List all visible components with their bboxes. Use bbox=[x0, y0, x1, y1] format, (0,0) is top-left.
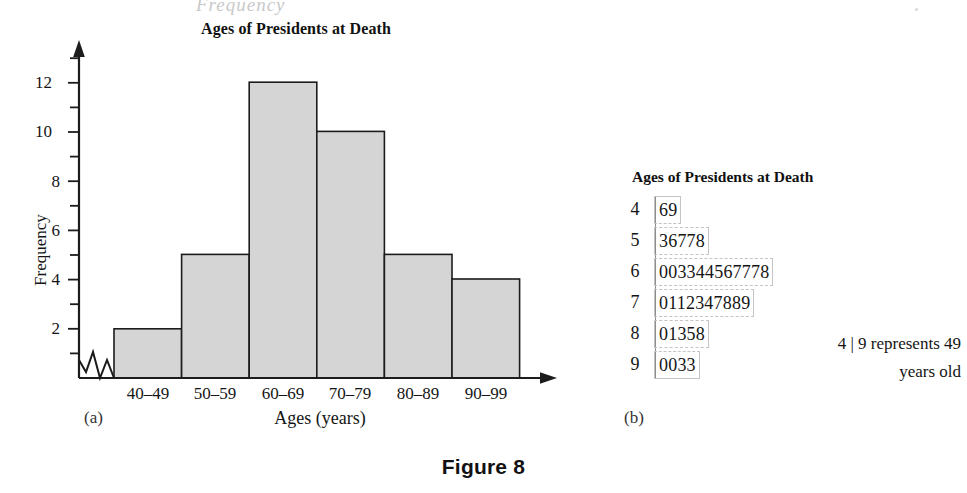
bar-90-99 bbox=[452, 279, 520, 378]
stemleaf-title: Ages of Presidents at Death bbox=[632, 168, 813, 186]
x-axis-title: Ages (years) bbox=[190, 408, 450, 429]
stem-value: 5 bbox=[624, 230, 646, 251]
bar-50-59 bbox=[182, 254, 250, 378]
y-tick-label-12: 12 bbox=[26, 73, 52, 93]
stemleaf-legend: 4 | 9 represents 49 years old bbox=[796, 330, 961, 386]
leaf-values: 69 bbox=[654, 196, 681, 224]
x-tick-label-90-99: 90–99 bbox=[446, 384, 526, 404]
leaf-values: 01358 bbox=[654, 320, 709, 348]
stem-value: 9 bbox=[624, 354, 646, 375]
stemleaf-rows: 4 69 5 36778 6 003344567778 7 0112347889… bbox=[624, 194, 773, 380]
stemleaf-row: 9 0033 bbox=[624, 349, 773, 380]
legend-key: 4 | 9 bbox=[838, 334, 867, 353]
leaf-values: 0112347889 bbox=[654, 289, 754, 317]
panel-b-label: (b) bbox=[624, 408, 644, 428]
bar-60-69 bbox=[249, 82, 317, 378]
bar-40-49 bbox=[114, 329, 182, 378]
leaf-values: 003344567778 bbox=[654, 258, 773, 286]
axis-break-zigzag bbox=[79, 352, 114, 378]
panel-b-stemleaf: Ages of Presidents at Death 4 69 5 36778… bbox=[600, 0, 967, 493]
bar-70-79 bbox=[317, 131, 385, 378]
histogram-plot bbox=[0, 0, 600, 440]
leaf-values: 0033 bbox=[654, 351, 700, 379]
figure-page: Frequency Ages of Presidents at Death bbox=[0, 0, 967, 493]
x-axis-arrow bbox=[540, 372, 557, 384]
y-tick-label-6: 6 bbox=[34, 221, 60, 241]
legend-line2: years old bbox=[796, 358, 961, 386]
legend-text: represents 49 bbox=[871, 334, 961, 353]
stemleaf-row: 7 0112347889 bbox=[624, 287, 773, 318]
stemleaf-row: 8 01358 bbox=[624, 318, 773, 349]
y-tick-label-8: 8 bbox=[34, 172, 60, 192]
stemleaf-row: 6 003344567778 bbox=[624, 256, 773, 287]
stem-value: 8 bbox=[624, 323, 646, 344]
y-tick-label-10: 10 bbox=[26, 122, 52, 142]
y-tick-label-2: 2 bbox=[34, 319, 60, 339]
figure-caption: Figure 8 bbox=[0, 455, 967, 479]
bar-80-89 bbox=[384, 254, 452, 378]
stemleaf-row: 4 69 bbox=[624, 194, 773, 225]
stemleaf-row: 5 36778 bbox=[624, 225, 773, 256]
panel-a-histogram: Ages of Presidents at Death bbox=[0, 0, 600, 493]
panel-a-label: (a) bbox=[84, 408, 103, 428]
histogram-bars bbox=[114, 82, 520, 378]
stem-value: 6 bbox=[624, 261, 646, 282]
stem-value: 7 bbox=[624, 292, 646, 313]
y-axis-arrow bbox=[73, 40, 85, 57]
y-axis-title: Frequency bbox=[31, 180, 51, 320]
y-axis bbox=[73, 40, 85, 378]
leaf-values: 36778 bbox=[654, 227, 709, 255]
y-tick-label-4: 4 bbox=[34, 270, 60, 290]
y-tick-marks bbox=[68, 58, 79, 353]
stem-value: 4 bbox=[624, 199, 646, 220]
